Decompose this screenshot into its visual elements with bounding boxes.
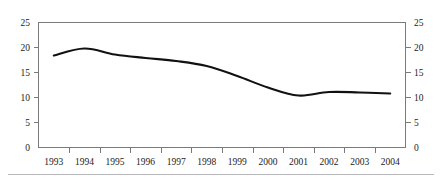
plot-frame bbox=[39, 23, 406, 148]
x-label-1999: 1999 bbox=[228, 157, 247, 167]
y-label-right-0: 0 bbox=[414, 143, 419, 153]
y-label-right-5: 5 bbox=[414, 118, 419, 128]
x-label-2002: 2002 bbox=[320, 157, 339, 167]
y-axis-left-ticks bbox=[34, 48, 39, 123]
x-label-1993: 1993 bbox=[44, 157, 63, 167]
plot-border bbox=[39, 23, 406, 148]
data-series-line bbox=[54, 48, 390, 95]
chart-figure: 25 20 15 10 5 0 25 20 15 10 5 0 19931994… bbox=[0, 0, 442, 183]
y-label-left-25: 25 bbox=[21, 18, 31, 28]
x-label-2004: 2004 bbox=[381, 157, 400, 167]
x-label-1996: 1996 bbox=[136, 157, 155, 167]
y-axis-right-ticks bbox=[406, 48, 411, 123]
y-label-left-5: 5 bbox=[25, 118, 30, 128]
x-label-1997: 1997 bbox=[167, 157, 186, 167]
y-label-right-15: 15 bbox=[414, 68, 424, 78]
x-axis-labels: 1993199419951996199719981999200020012002… bbox=[44, 157, 400, 167]
y-label-left-20: 20 bbox=[21, 43, 31, 53]
x-axis-ticks bbox=[70, 148, 376, 153]
y-label-left-0: 0 bbox=[25, 143, 30, 153]
y-label-right-20: 20 bbox=[414, 43, 424, 53]
x-label-2001: 2001 bbox=[289, 157, 308, 167]
y-label-left-10: 10 bbox=[21, 93, 31, 103]
x-label-1994: 1994 bbox=[75, 157, 94, 167]
line-chart: 25 20 15 10 5 0 25 20 15 10 5 0 19931994… bbox=[0, 0, 442, 183]
x-label-1995: 1995 bbox=[105, 157, 124, 167]
x-label-2003: 2003 bbox=[350, 157, 369, 167]
y-label-left-15: 15 bbox=[21, 68, 31, 78]
y-label-right-25: 25 bbox=[414, 18, 424, 28]
y-label-right-10: 10 bbox=[414, 93, 424, 103]
y-axis-left-labels: 25 20 15 10 5 0 bbox=[21, 18, 31, 153]
y-axis-right-labels: 25 20 15 10 5 0 bbox=[414, 18, 424, 153]
x-label-2000: 2000 bbox=[258, 157, 277, 167]
x-label-1998: 1998 bbox=[197, 157, 216, 167]
